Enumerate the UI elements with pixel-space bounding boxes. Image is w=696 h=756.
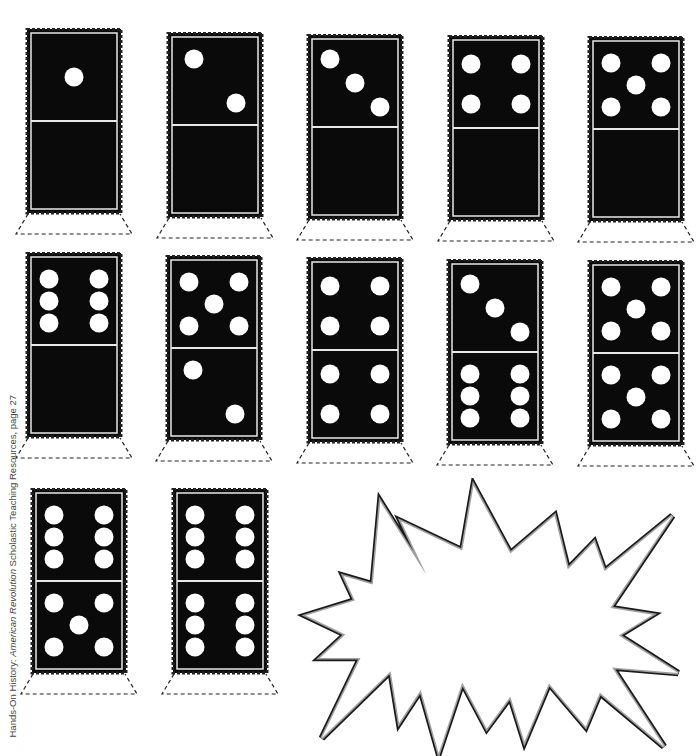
domino-tile-icon <box>434 35 558 247</box>
domino-tile-icon <box>12 252 136 464</box>
domino-tile-icon <box>433 259 557 471</box>
copyright-credit: Hands-On History: American Revolution Sc… <box>7 470 18 738</box>
credit-book-title: American Revolution <box>7 569 18 657</box>
credit-suffix: Scholastic Teaching Resources, page 27 <box>7 395 18 569</box>
domino-3-0 <box>307 34 403 244</box>
domino-tile-icon <box>293 34 417 246</box>
domino-4-0 <box>448 35 544 245</box>
domino-6-6 <box>172 488 268 698</box>
domino-5-5 <box>588 260 684 470</box>
credit-prefix: Hands-On History: <box>7 657 18 738</box>
domino-tile-icon <box>293 257 417 469</box>
domino-tile-icon <box>158 488 282 700</box>
domino-5-0 <box>588 36 684 246</box>
domino-5-2 <box>166 255 262 465</box>
domino-1-0 <box>26 28 122 238</box>
domino-tile-icon <box>153 32 277 244</box>
domino-4-4 <box>307 257 403 467</box>
domino-tile-icon <box>12 28 136 240</box>
domino-6-5 <box>31 488 127 698</box>
domino-tile-icon <box>152 255 276 467</box>
domino-6-0 <box>26 252 122 462</box>
domino-tile-icon <box>574 36 696 248</box>
domino-tile-icon <box>17 488 141 700</box>
domino-3-6 <box>447 259 543 469</box>
domino-2-0 <box>167 32 263 242</box>
starburst-shape <box>296 478 686 756</box>
domino-tile-icon <box>574 260 696 472</box>
